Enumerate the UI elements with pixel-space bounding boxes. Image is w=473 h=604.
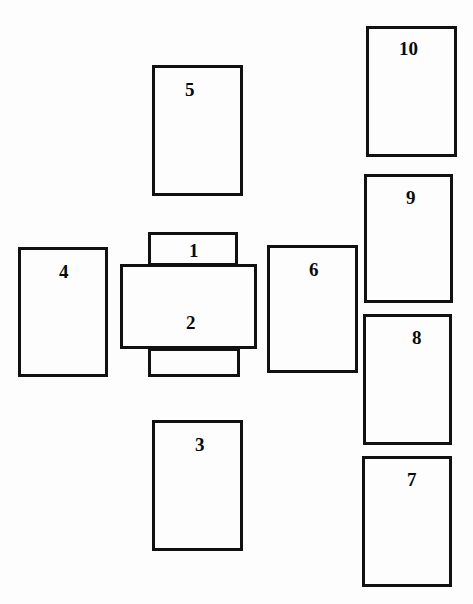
panel-7[interactable]: 7 bbox=[362, 456, 452, 587]
panel-6-label: 6 bbox=[309, 260, 319, 279]
panel-2-label: 2 bbox=[186, 313, 196, 332]
panel-4[interactable]: 4 bbox=[18, 247, 108, 377]
panel-2[interactable]: 2 bbox=[120, 264, 257, 349]
diagram-canvas: 51246310987 bbox=[0, 0, 473, 604]
panel-10[interactable]: 10 bbox=[366, 26, 457, 157]
panel-5-label: 5 bbox=[185, 80, 195, 99]
panel-unlabeled-bottom[interactable] bbox=[148, 348, 240, 377]
panel-1[interactable]: 1 bbox=[148, 232, 238, 266]
panel-5[interactable]: 5 bbox=[152, 65, 243, 196]
panel-3[interactable]: 3 bbox=[152, 420, 243, 551]
panel-9[interactable]: 9 bbox=[364, 174, 453, 303]
panel-8-label: 8 bbox=[412, 328, 422, 347]
panel-6[interactable]: 6 bbox=[267, 245, 358, 373]
panel-10-label: 10 bbox=[399, 39, 418, 58]
panel-3-label: 3 bbox=[195, 435, 205, 454]
panel-7-label: 7 bbox=[407, 470, 417, 489]
panel-4-label: 4 bbox=[59, 262, 69, 281]
panel-9-label: 9 bbox=[406, 188, 416, 207]
panel-8[interactable]: 8 bbox=[363, 314, 452, 445]
panel-1-label: 1 bbox=[189, 241, 199, 260]
